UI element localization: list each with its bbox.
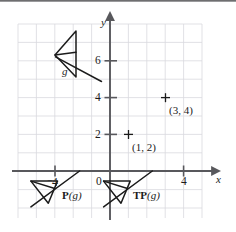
- plus-marker-1-2: [124, 130, 133, 139]
- plus-marker-3-4: [161, 93, 170, 102]
- x-tick-label-4: 4: [181, 176, 187, 188]
- y-tick-label-6: 6: [95, 55, 101, 67]
- shape-label-tp-of-g: TP(g): [133, 190, 160, 201]
- x-tick-label-neg4: −4: [47, 176, 58, 188]
- x-tick-label-neg4-digits: 4: [52, 176, 58, 188]
- shape-tp-of-g-outline: [104, 181, 131, 203]
- shape-label-tp-of-g-operator: TP: [133, 189, 147, 201]
- y-axis-label: y: [101, 17, 106, 28]
- coordinate-plane-figure: y x −4 0 4 2 4 6 (1, 2) (3, 4) g P(g) TP…: [0, 0, 236, 232]
- y-tick-label-2: 2: [95, 129, 101, 141]
- shape-label-g: g: [62, 66, 68, 77]
- shape-label-tp-of-g-argument: (g): [147, 189, 160, 201]
- shape-label-p-of-g-operator: P: [62, 189, 69, 201]
- tick-marks: [55, 61, 184, 177]
- point-label-1-2: (1, 2): [132, 142, 156, 153]
- y-tick-label-4: 4: [95, 92, 101, 104]
- shape-label-p-of-g-argument: (g): [69, 189, 82, 201]
- shape-label-p-of-g: P(g): [62, 190, 82, 201]
- point-label-3-4: (3, 4): [169, 105, 193, 116]
- x-axis-label: x: [216, 174, 221, 185]
- origin-label: 0: [96, 176, 102, 188]
- plot-canvas: [0, 0, 236, 232]
